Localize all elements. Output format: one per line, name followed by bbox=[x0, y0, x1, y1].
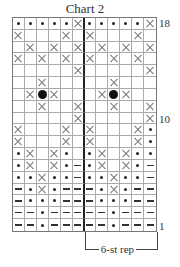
chart-cell bbox=[120, 136, 132, 148]
chart-cell bbox=[13, 101, 25, 113]
cross-x-icon bbox=[110, 102, 118, 110]
chart-cell bbox=[73, 65, 85, 77]
cross-x-icon bbox=[146, 102, 154, 110]
chart-cell bbox=[25, 30, 37, 42]
purl-dot-icon bbox=[88, 22, 91, 25]
chart-cell bbox=[49, 42, 61, 54]
knitting-chart-grid bbox=[12, 17, 157, 232]
chart-cell bbox=[61, 148, 73, 160]
chart-cell bbox=[37, 136, 49, 148]
purl-dot-icon bbox=[53, 199, 56, 202]
chart-cell bbox=[85, 101, 97, 113]
purl-dot-icon bbox=[100, 188, 103, 191]
dash-icon bbox=[15, 224, 22, 225]
cross-x-icon bbox=[14, 138, 22, 146]
chart-cell bbox=[132, 53, 144, 65]
purl-dot-icon bbox=[29, 176, 32, 179]
dash-icon bbox=[74, 188, 81, 189]
chart-cell bbox=[85, 207, 97, 219]
chart-cell bbox=[25, 113, 37, 125]
purl-dot-icon bbox=[17, 152, 20, 155]
purl-dot-icon bbox=[136, 164, 139, 167]
purl-dot-icon bbox=[124, 176, 127, 179]
chart-cell bbox=[13, 30, 25, 42]
dash-icon bbox=[27, 212, 34, 213]
chart-cell bbox=[144, 207, 156, 219]
chart-cell bbox=[132, 77, 144, 89]
cross-x-icon bbox=[146, 114, 154, 122]
chart-cell bbox=[73, 30, 85, 42]
dash-icon bbox=[147, 188, 154, 189]
dash-icon bbox=[98, 224, 105, 225]
cross-x-icon bbox=[122, 43, 130, 51]
cross-x-icon bbox=[110, 55, 118, 63]
chart-cell bbox=[144, 30, 156, 42]
bobble-icon bbox=[38, 90, 47, 99]
chart-cell bbox=[73, 113, 85, 125]
chart-cell bbox=[25, 65, 37, 77]
purl-dot-icon bbox=[65, 152, 68, 155]
cross-x-icon bbox=[26, 90, 34, 98]
purl-dot-icon bbox=[100, 176, 103, 179]
chart-cell bbox=[73, 124, 85, 136]
chart-cell bbox=[37, 89, 49, 101]
chart-cell bbox=[25, 160, 37, 172]
dash-icon bbox=[86, 212, 93, 213]
dash-icon bbox=[74, 212, 81, 213]
cross-x-icon bbox=[50, 43, 58, 51]
chart-cell bbox=[108, 136, 120, 148]
dash-icon bbox=[122, 212, 129, 213]
chart-title: Chart 2 bbox=[0, 1, 170, 17]
dash-icon bbox=[134, 224, 141, 225]
chart-cell bbox=[37, 42, 49, 54]
chart-cell bbox=[96, 184, 108, 196]
row-number-label: 1 bbox=[159, 220, 165, 232]
chart-cell bbox=[25, 219, 37, 231]
purl-dot-icon bbox=[29, 22, 32, 25]
chart-cell bbox=[85, 195, 97, 207]
purl-dot-icon bbox=[29, 188, 32, 191]
chart-cell bbox=[108, 18, 120, 30]
chart-cell bbox=[13, 53, 25, 65]
cross-x-icon bbox=[26, 161, 34, 169]
cross-x-icon bbox=[74, 43, 82, 51]
dash-icon bbox=[74, 177, 81, 178]
chart-cell bbox=[73, 148, 85, 160]
dash-icon bbox=[147, 200, 154, 201]
chart-cell bbox=[61, 101, 73, 113]
chart-cell bbox=[61, 42, 73, 54]
purl-dot-icon bbox=[136, 22, 139, 25]
dash-icon bbox=[74, 200, 81, 201]
chart-cell bbox=[49, 65, 61, 77]
chart-cell bbox=[108, 148, 120, 160]
purl-dot-icon bbox=[53, 188, 56, 191]
chart-cell bbox=[73, 101, 85, 113]
chart-cell bbox=[13, 113, 25, 125]
cross-x-icon bbox=[74, 19, 82, 27]
purl-dot-icon bbox=[100, 199, 103, 202]
dash-icon bbox=[74, 165, 81, 166]
chart-cell bbox=[132, 219, 144, 231]
chart-cell bbox=[108, 172, 120, 184]
chart-cell bbox=[37, 113, 49, 125]
chart-cell bbox=[25, 172, 37, 184]
chart-cell bbox=[37, 184, 49, 196]
purl-dot-icon bbox=[112, 224, 115, 227]
chart-cell bbox=[37, 101, 49, 113]
chart-cell bbox=[49, 30, 61, 42]
chart-cell bbox=[132, 160, 144, 172]
chart-cell bbox=[96, 30, 108, 42]
purl-dot-icon bbox=[17, 22, 20, 25]
cross-x-icon bbox=[38, 79, 46, 87]
chart-cell bbox=[108, 77, 120, 89]
cross-x-icon bbox=[86, 138, 94, 146]
chart-cell bbox=[13, 195, 25, 207]
dash-icon bbox=[86, 200, 93, 201]
chart-cell bbox=[132, 148, 144, 160]
chart-cell bbox=[61, 65, 73, 77]
purl-dot-icon bbox=[124, 22, 127, 25]
chart-cell bbox=[61, 195, 73, 207]
chart-cell bbox=[96, 136, 108, 148]
purl-dot-icon bbox=[136, 176, 139, 179]
chart-cell bbox=[108, 195, 120, 207]
